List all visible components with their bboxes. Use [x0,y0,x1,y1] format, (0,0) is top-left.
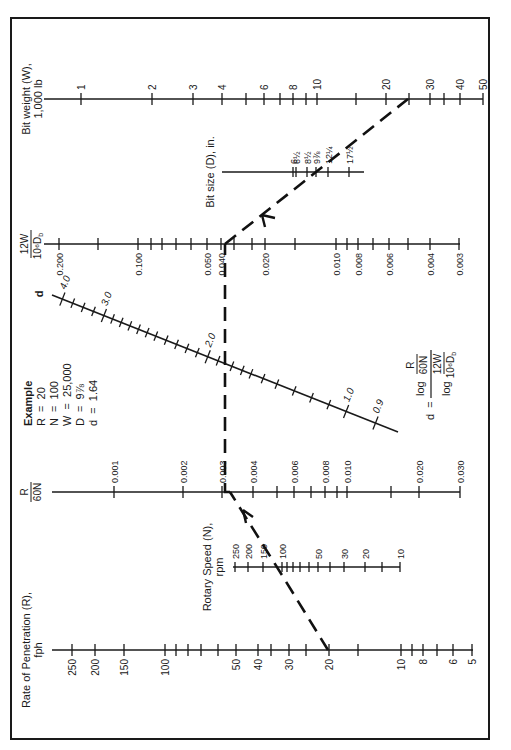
formula-den-top: 12W [432,353,443,374]
tick-label: 0.020 [261,253,271,276]
twelve-w-axis: 0.2000.1000.0500.0400.0200.0100.0080.006… [19,230,465,276]
tick-label: 3 [188,84,199,90]
tick-label: 6 [448,659,459,665]
tick-label: 10 [396,659,407,671]
formula-num-top: R [405,361,416,368]
tick-label: 150 [119,659,130,676]
tick-label: 0.002 [179,460,189,483]
tick-label: 40 [455,78,466,90]
tick-label: 0.008 [354,253,364,276]
formula-den-log: log [440,381,452,396]
tick-label: 4 [217,84,228,90]
tick-label: 0.006 [290,460,300,483]
formula-den-sub: b [450,352,457,356]
tick-label: 8 [418,659,429,665]
formula-den-bot: 10⁶D [445,356,456,378]
bit-weight-axis: 1234681020304050 Bit weight (W), 1,000 l… [20,63,489,135]
tick-label: 5 [467,659,478,665]
tick-label: 100 [160,659,171,676]
path-r60n-to-12w [225,244,230,492]
example-line-w: W = 25,000 [61,363,73,426]
svg-text:10⁶Db: 10⁶Db [32,233,44,259]
tick-label: 200 [90,659,101,676]
tick-label: 0.004 [249,460,259,483]
tick-label: 20 [361,549,371,559]
tick-label: 1 [76,84,87,90]
rate-of-penetration-axis: 2502001501005040302010865 Rate of Penetr… [20,592,478,708]
bit-size-label: Bit size (D), in. [204,136,216,208]
tick-label: 6 [259,84,270,90]
tick-label: 0.030 [456,460,466,483]
tick-label: 2.0 [202,331,218,349]
tick-label: 0.010 [332,253,342,276]
rop-label-line1: Rate of Penetration (R), [20,592,32,708]
d-scale-label: d [33,291,45,298]
tick-label: 0.9 [370,397,386,414]
d-formula: d = log R 60N log 12W 10⁶Db [405,350,457,420]
tick-label: 0.200 [55,253,65,276]
tick-label: 10 [396,549,406,559]
r-over-60n-axis: 0.0010.0020.0030.0040.0060.0080.0100.020… [19,460,466,502]
example-line-d-size: D = 9⅞ [74,383,86,426]
tick-label: 50 [478,78,489,90]
tick-label: 0.020 [415,460,425,483]
tick-label: 50 [231,659,242,671]
tick-label: 9⅞ [312,151,322,164]
tick-label: 20 [324,659,335,671]
rotary-speed-axis: 25020015010050302010 Rotary Speed (N), r… [201,523,406,612]
tick-label: 0.050 [203,253,213,276]
example-line-d-exp: d = 1.64 [87,380,99,426]
tick-label: 30 [284,659,295,671]
example-box: Example R = 20 N = 100 W = 25,000 D = 9⅞… [22,363,99,426]
tick-label: 2 [147,84,158,90]
tick-label: 0.003 [455,253,465,276]
nomogram-figure: 1234681020304050 Bit weight (W), 1,000 l… [0,0,511,750]
tick-label: 20 [381,78,392,90]
tick-label: 1.0 [341,386,357,403]
twelve-w-label-top: 12W [19,233,30,254]
tick-label: 50 [314,549,324,559]
tick-label: 100 [278,544,288,559]
r-over-60n-label: R 60N [19,482,43,502]
tick-label: 0.100 [134,253,144,276]
arrow-up-icon [243,510,253,523]
tick-label: 0.008 [321,460,331,483]
tick-label: 0.010 [343,460,353,483]
r-over-60n-label-bot: 60N [32,483,43,501]
twelve-w-label-sub: b [37,233,44,237]
formula-lhs: d = [424,401,436,420]
example-line-n: N = 100 [48,381,60,426]
formula-num-bot: 60N [418,356,429,374]
rotary-speed-label-line1: Rotary Speed (N), [201,523,213,612]
formula-num-log: log [414,381,426,396]
rop-label-line2: fph [32,642,44,657]
tick-label: 0.004 [426,253,436,276]
rotary-speed-label-line2: rpm [213,558,225,577]
example-title: Example [22,381,34,426]
tick-label: 6½ [292,151,302,164]
tick-label: 30 [425,78,436,90]
arrow-down-left-icon [262,215,275,227]
tick-label: 200 [244,544,254,559]
twelve-w-label-bot: 10⁶D [32,237,43,259]
tick-label: 250 [67,659,78,676]
bit-weight-label-line2: 1,000 lb [32,79,44,118]
tick-label: 0.001 [110,460,120,483]
bit-weight-label-line1: Bit weight (W), [20,63,32,135]
tick-label: 8 [288,84,299,90]
r-over-60n-label-top: R [19,488,30,495]
twelve-w-label: 12W 10⁶Db [19,230,44,259]
tick-label: 40 [253,659,264,671]
tick-label: 3.0 [99,290,115,307]
tick-label: 250 [231,544,241,559]
svg-text:10⁶Db: 10⁶Db [445,352,457,378]
tick-label: 0.006 [385,253,395,276]
figure-border [11,18,489,739]
tick-label: 10 [312,78,323,90]
tick-label: 30 [340,549,350,559]
example-line-r: R = 20 [35,387,47,426]
